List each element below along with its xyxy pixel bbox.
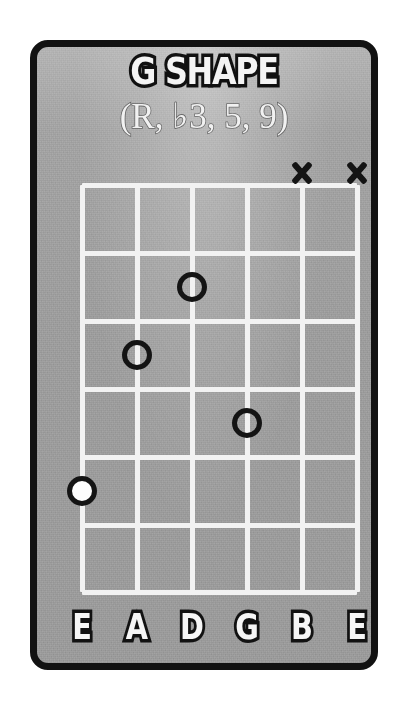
- fretboard-grid: [82, 185, 357, 592]
- note-marker-d-fret2: [177, 272, 207, 302]
- string-label-6: E: [339, 605, 374, 649]
- note-marker-a-fret3: [122, 340, 152, 370]
- string-label-5: B: [284, 605, 319, 649]
- string-label-row: EADGBE: [82, 605, 357, 655]
- chord-diagram-card: G SHAPE (R, ♭3, 5, 9) EADGBE: [30, 40, 378, 670]
- fret-line-5: [82, 523, 357, 528]
- root-note-marker-e-fret5: [67, 476, 97, 506]
- chord-intervals-subtitle: (R, ♭3, 5, 9): [37, 99, 371, 134]
- fret-line-3: [82, 387, 357, 392]
- string-label-4: G: [229, 605, 264, 649]
- fret-line-2: [82, 319, 357, 324]
- mute-x-icon-string-5: [287, 158, 317, 188]
- fret-line-1: [82, 251, 357, 256]
- mute-x-icon-string-6: [342, 158, 372, 188]
- string-label-1: E: [64, 605, 99, 649]
- string-label-3: D: [174, 605, 209, 649]
- string-label-2: A: [119, 605, 154, 649]
- note-marker-g-fret4: [232, 408, 262, 438]
- fret-line-4: [82, 455, 357, 460]
- page-title: G SHAPE: [60, 53, 347, 90]
- fret-line-6: [82, 590, 357, 595]
